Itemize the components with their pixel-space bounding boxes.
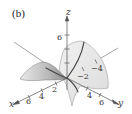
saddle-surface-figure: (b) z x bbox=[0, 0, 132, 114]
z-tick-6: 6 bbox=[57, 33, 62, 42]
y-tick-neg2: −2 bbox=[77, 72, 89, 81]
z-axis-label: z bbox=[65, 7, 71, 17]
y-tick-4: 4 bbox=[87, 91, 92, 100]
panel-label: (b) bbox=[12, 7, 25, 20]
y-axis-label: y bbox=[117, 98, 124, 108]
y-tick-6: 6 bbox=[99, 98, 104, 107]
x-tick-6: 6 bbox=[26, 97, 31, 106]
x-tick-2: 2 bbox=[52, 85, 57, 94]
y-tick-neg4: −4 bbox=[91, 64, 103, 73]
x-tick-4: 4 bbox=[39, 92, 44, 101]
x-axis-label: x bbox=[9, 99, 14, 109]
